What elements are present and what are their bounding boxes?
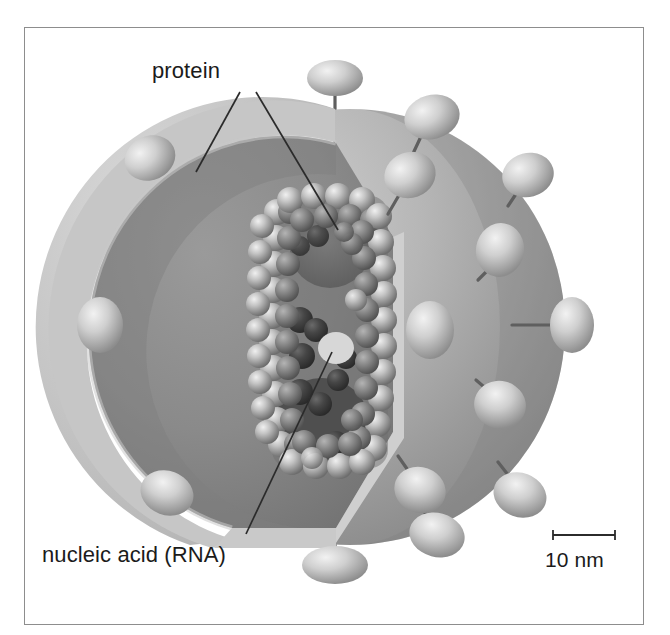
scale-bar xyxy=(553,530,615,540)
virus-illustration xyxy=(0,0,670,635)
spike-head-left xyxy=(77,297,123,353)
spike-head-top xyxy=(307,60,363,96)
virus-particle xyxy=(36,60,615,584)
label-protein: protein xyxy=(152,58,220,84)
virus-diagram-figure: protein nucleic acid (RNA) 10 nm xyxy=(0,0,670,635)
spike-head-far-right xyxy=(550,297,594,353)
spike-head-center-face xyxy=(406,301,454,359)
spike-head-bottom xyxy=(302,546,368,584)
nucleocapsid-protein-subunits xyxy=(246,183,397,479)
scale-bar-label: 10 nm xyxy=(545,548,604,572)
label-nucleic-acid: nucleic acid (RNA) xyxy=(42,542,226,568)
